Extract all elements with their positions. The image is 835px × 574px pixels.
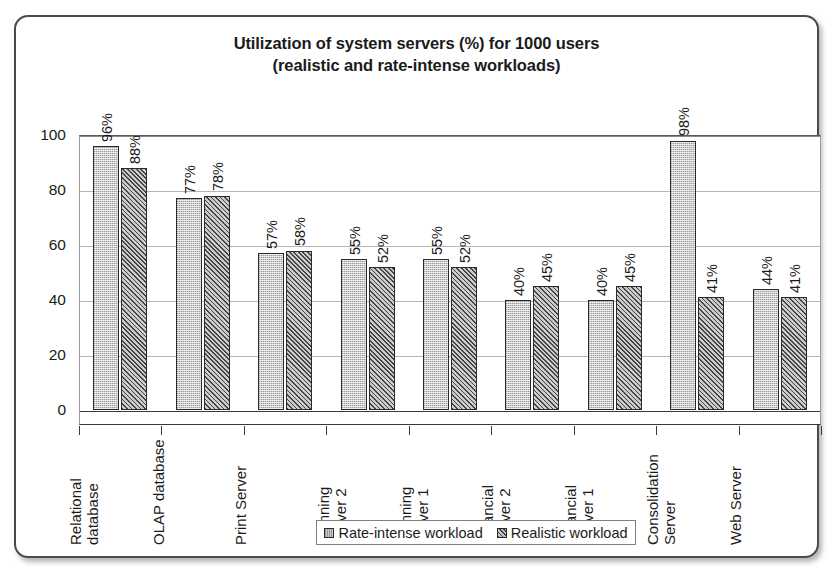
x-tick <box>491 426 492 435</box>
bars-layer: 96%88%77%78%57%58%55%52%55%52%40%45%40%4… <box>79 135 821 411</box>
y-tick-label: 20 <box>49 346 66 364</box>
y-tick-label: 40 <box>49 291 66 309</box>
bar-value-label: 55% <box>429 226 445 255</box>
bar-real[interactable]: 88% <box>121 168 147 410</box>
x-axis-ticks <box>79 426 821 435</box>
bar-rate[interactable]: 55% <box>341 259 367 410</box>
legend-item[interactable]: Realistic workload <box>497 525 628 541</box>
bar-value-label: 58% <box>292 217 308 246</box>
chart-title-line-1: Utilization of system servers (%) for 10… <box>234 34 600 52</box>
x-tick <box>244 426 245 435</box>
bar-rate[interactable]: 40% <box>588 300 614 410</box>
legend-swatch-rate <box>324 528 334 538</box>
bar-real[interactable]: 52% <box>451 267 477 410</box>
bar-rate[interactable]: 77% <box>176 198 202 410</box>
x-tick <box>161 426 162 435</box>
y-tick-label: 80 <box>49 181 66 199</box>
bar-group: 96%88% <box>93 135 147 410</box>
bar-rate[interactable]: 96% <box>93 146 119 410</box>
bar-real[interactable]: 58% <box>286 251 312 411</box>
bar-value-label: 45% <box>622 253 638 282</box>
y-tick-label: 60 <box>49 236 66 254</box>
bar-rate[interactable]: 98% <box>670 141 696 411</box>
bar-value-label: 40% <box>511 267 527 296</box>
bar-group: 40%45% <box>505 135 559 410</box>
bar-rate[interactable]: 57% <box>258 253 284 410</box>
bar-group: 98%41% <box>670 135 724 410</box>
bar-value-label: 77% <box>182 165 198 194</box>
x-tick <box>574 426 575 435</box>
bar-value-label: 44% <box>759 256 775 285</box>
y-tick-label: 0 <box>57 401 66 419</box>
x-tick <box>326 426 327 435</box>
chart-title-line-2: (realistic and rate-intense workloads) <box>16 55 817 77</box>
x-tick <box>821 426 822 435</box>
x-tick <box>409 426 410 435</box>
bar-value-label: 52% <box>375 234 391 263</box>
bar-real[interactable]: 41% <box>781 297 807 410</box>
chart-legend: Rate-intense workloadRealistic workload <box>316 520 636 545</box>
bar-rate[interactable]: 44% <box>753 289 779 410</box>
bar-value-label: 96% <box>99 113 115 142</box>
bar-value-label: 88% <box>127 135 143 164</box>
gridline <box>80 411 820 412</box>
bar-value-label: 45% <box>539 253 555 282</box>
bar-rate[interactable]: 55% <box>423 259 449 410</box>
bar-group: 55%52% <box>423 135 477 410</box>
x-tick <box>79 426 80 435</box>
x-tick <box>739 426 740 435</box>
bar-group: 44%41% <box>753 135 807 410</box>
bar-real[interactable]: 78% <box>204 196 230 411</box>
x-category-label: Web Server <box>728 437 835 545</box>
bar-value-label: 57% <box>264 220 280 249</box>
bar-real[interactable]: 52% <box>369 267 395 410</box>
bar-group: 55%52% <box>341 135 395 410</box>
bar-real[interactable]: 41% <box>698 297 724 410</box>
bar-group: 77%78% <box>176 135 230 410</box>
chart-screenshot: Utilization of system servers (%) for 10… <box>0 0 835 574</box>
legend-swatch-real <box>497 528 507 538</box>
legend-label: Rate-intense workload <box>338 525 482 541</box>
bar-real[interactable]: 45% <box>616 286 642 410</box>
bar-value-label: 52% <box>457 234 473 263</box>
bar-value-label: 41% <box>704 264 720 293</box>
x-tick <box>656 426 657 435</box>
bar-value-label: 55% <box>347 226 363 255</box>
bar-value-label: 41% <box>787 264 803 293</box>
bar-value-label: 40% <box>594 267 610 296</box>
bar-value-label: 98% <box>676 107 692 136</box>
chart-frame: Utilization of system servers (%) for 10… <box>14 15 819 558</box>
y-axis-labels: 020406080100 <box>16 17 74 574</box>
bar-rate[interactable]: 40% <box>505 300 531 410</box>
chart-title: Utilization of system servers (%) for 10… <box>16 33 817 77</box>
bar-value-label: 78% <box>210 162 226 191</box>
bar-real[interactable]: 45% <box>533 286 559 410</box>
bar-group: 57%58% <box>258 135 312 410</box>
y-tick-label: 100 <box>40 126 66 144</box>
bar-group: 40%45% <box>588 135 642 410</box>
legend-item[interactable]: Rate-intense workload <box>324 525 482 541</box>
legend-label: Realistic workload <box>511 525 628 541</box>
